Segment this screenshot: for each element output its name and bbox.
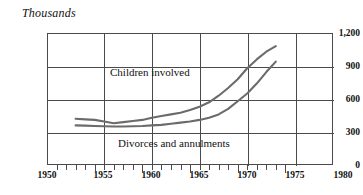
series-line-children-involved (76, 46, 276, 123)
series-annotation-children-involved: Children involved (110, 66, 190, 78)
series-annotation-divorces-and-annulments: Divorces and annulments (118, 137, 230, 149)
